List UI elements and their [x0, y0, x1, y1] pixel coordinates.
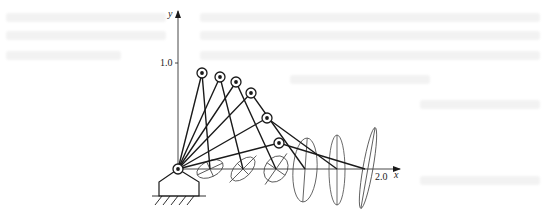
elbow-joint-3-icon	[231, 77, 241, 87]
x-axis-label: x	[394, 170, 398, 180]
manipulability-ellipses	[194, 127, 380, 209]
diagram-canvas	[0, 0, 549, 220]
manipulator-figure: y 1.0 2.0 x	[0, 0, 549, 220]
x-tick-label: 2.0	[375, 172, 388, 182]
y-tick-label: 1.0	[160, 58, 173, 68]
elbow-joint-6-icon	[274, 138, 284, 148]
ellipse-4	[291, 137, 319, 203]
elbow-joint-1-icon	[197, 68, 207, 78]
config-1-links	[178, 73, 210, 169]
base-joint-icon	[173, 164, 183, 174]
ellipse-5	[329, 135, 345, 205]
elbow-joint-4-icon	[246, 88, 256, 98]
elbow-joint-5-icon	[262, 113, 272, 123]
ground-hatching	[152, 196, 206, 205]
y-axis-label: y	[168, 9, 172, 19]
elbow-joint-2-icon	[215, 72, 225, 82]
